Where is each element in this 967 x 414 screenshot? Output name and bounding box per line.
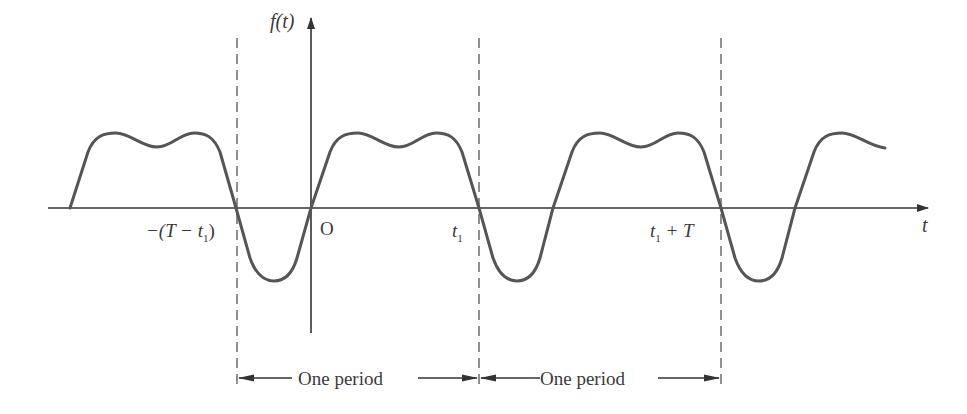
diagram-canvas — [0, 0, 967, 414]
tick-label-neg-t1-main: −(T − t — [146, 220, 203, 241]
tick-label-t1-plus-T: t1 + T — [650, 220, 694, 244]
tick-label-t1-sub: 1 — [457, 232, 463, 244]
origin-label: O — [320, 218, 334, 240]
y-axis-label: f(t) — [270, 10, 294, 33]
waveform-curve — [70, 133, 885, 281]
period-label-2: One period — [540, 368, 625, 390]
tick-label-neg-t1: −(T − t1) — [146, 220, 215, 244]
tick-label-t1T-rest: + T — [661, 220, 694, 241]
periodic-function-diagram: f(t) t O −(T − t1) t1 t1 + T One period … — [0, 0, 967, 414]
period-label-1: One period — [298, 368, 383, 390]
tick-label-t1: t1 — [452, 220, 463, 244]
x-axis-label: t — [922, 214, 928, 237]
tick-label-neg-t1-close: ) — [208, 220, 214, 241]
